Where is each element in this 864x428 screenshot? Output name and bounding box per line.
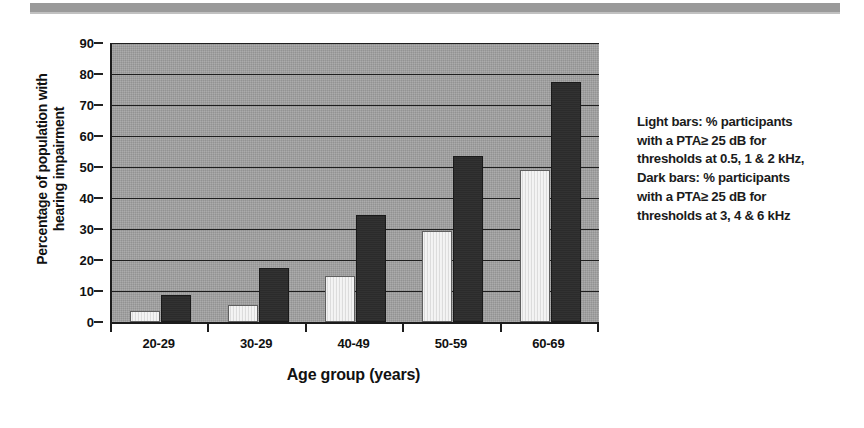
bar-light-20-29 — [130, 311, 160, 322]
y-tick-mark — [94, 166, 103, 168]
y-tick-mark — [94, 42, 103, 44]
gridline — [112, 136, 599, 137]
x-axis-title: Age group (years) — [110, 366, 597, 384]
legend-note-line: Light bars: % participants — [637, 113, 852, 132]
x-tick-label-30-29: 30-29 — [240, 336, 272, 351]
x-tick-mark — [207, 324, 209, 332]
y-tick-mark — [94, 73, 103, 75]
bar-dark-30-29 — [259, 268, 289, 322]
x-tick-mark — [305, 324, 307, 332]
plot-area — [110, 43, 599, 324]
y-tick-label: 60 — [80, 129, 94, 144]
bar-dark-20-29 — [161, 295, 191, 322]
y-tick-mark — [94, 197, 103, 199]
y-tick-label: 20 — [80, 253, 94, 268]
y-tick-label: 40 — [80, 191, 94, 206]
y-tick-label: 10 — [80, 284, 94, 299]
gridline — [112, 43, 599, 44]
legend-note: Light bars: % participantswith a PTA≥ 25… — [637, 113, 852, 225]
y-tick-mark — [94, 104, 103, 106]
y-tick-label: 90 — [80, 36, 94, 51]
bar-light-30-29 — [228, 305, 258, 322]
legend-note-line: Dark bars: % participants — [637, 169, 852, 188]
y-tick-label: 30 — [80, 222, 94, 237]
x-tick-mark — [110, 324, 112, 332]
legend-note-line: with a PTA≥ 25 dB for — [637, 188, 852, 207]
legend-note-line: thresholds at 0.5, 1 & 2 kHz, — [637, 150, 852, 169]
bar-dark-60-69 — [551, 82, 581, 322]
legend-note-line: with a PTA≥ 25 dB for — [637, 132, 852, 151]
x-tick-label-50-59: 50-59 — [435, 336, 467, 351]
y-tick-mark — [94, 290, 103, 292]
gridline — [112, 167, 599, 168]
y-tick-mark — [94, 259, 103, 261]
y-tick-label: 50 — [80, 160, 94, 175]
gridline — [112, 105, 599, 106]
y-tick-mark — [94, 228, 103, 230]
y-tick-label: 80 — [80, 67, 94, 82]
gridline — [112, 74, 599, 75]
bar-light-40-49 — [325, 276, 355, 323]
y-tick-label: 70 — [80, 98, 94, 113]
bar-chart-figure: Percentage of population with hearing im… — [0, 0, 864, 428]
legend-note-line: thresholds at 3, 4 & 6 kHz — [637, 207, 852, 226]
y-tick-mark — [94, 321, 103, 323]
bar-dark-50-59 — [453, 156, 483, 322]
x-tick-label-40-49: 40-49 — [337, 336, 369, 351]
y-tick-label: 0 — [87, 315, 94, 330]
x-tick-mark — [597, 324, 599, 332]
bar-light-60-69 — [520, 170, 550, 322]
bar-dark-40-49 — [356, 215, 386, 322]
x-tick-mark — [500, 324, 502, 332]
y-axis-tick-labels: 0102030405060708090 — [62, 43, 102, 322]
x-tick-label-20-29: 20-29 — [143, 336, 175, 351]
x-tick-mark — [402, 324, 404, 332]
x-tick-label-60-69: 60-69 — [532, 336, 564, 351]
y-tick-mark — [94, 135, 103, 137]
bar-light-50-59 — [422, 231, 452, 322]
